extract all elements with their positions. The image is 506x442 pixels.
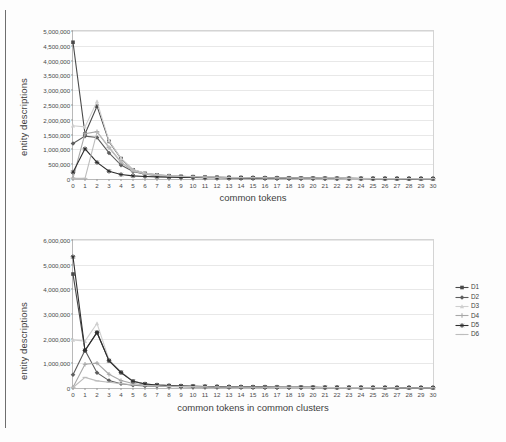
x-axis-tick-label: 9 <box>179 182 182 189</box>
data-point-marker-star <box>191 175 196 180</box>
series-D3 <box>71 321 435 389</box>
x-axis-tick-mark <box>109 179 110 181</box>
x-axis-tick-label: 24 <box>358 391 365 398</box>
x-axis-tick-label: 14 <box>238 182 245 189</box>
x-axis-tick-label: 15 <box>250 391 257 398</box>
legend-swatch-D1-icon <box>455 283 469 292</box>
legend-item-D5: D5 <box>455 321 479 330</box>
x-axis-tick-mark <box>145 179 146 181</box>
chart-top: entity descriptions 0500,0001,000,0001,5… <box>0 6 506 211</box>
legend-item-D6: D6 <box>455 330 479 339</box>
y-axis-tick-label: 2,500,000 <box>43 102 70 109</box>
x-axis-tick-label: 19 <box>298 182 305 189</box>
legend-swatch-D2-icon <box>455 293 469 302</box>
series-line <box>73 136 433 179</box>
x-axis-tick-label: 21 <box>322 182 329 189</box>
series-line <box>73 274 433 388</box>
data-point-marker-star <box>131 379 136 384</box>
x-axis-tick-label: 1 <box>83 391 86 398</box>
x-axis-tick-label: 16 <box>262 182 269 189</box>
y-axis-tick-label: 3,500,000 <box>43 72 70 79</box>
x-axis-tick-label: 16 <box>262 391 269 398</box>
x-axis-tick-label: 14 <box>238 391 245 398</box>
data-point-marker-star <box>203 175 208 180</box>
series-layer <box>73 31 433 179</box>
x-axis-tick-mark <box>109 388 110 390</box>
x-axis-tick-label: 17 <box>274 182 281 189</box>
x-axis-tick-label: 26 <box>382 391 389 398</box>
data-point-marker-triangle <box>95 99 99 103</box>
legend-swatch-D5-icon <box>455 321 469 330</box>
x-axis-tick-label: 20 <box>310 391 317 398</box>
y-axis-tick-label: 3,000,000 <box>43 311 70 318</box>
x-axis-tick-label: 4 <box>119 182 122 189</box>
x-axis-tick-label: 0 <box>71 182 74 189</box>
x-axis-tick-label: 12 <box>214 391 221 398</box>
data-point-marker-square <box>460 286 464 290</box>
data-point-marker-star <box>167 383 172 388</box>
x-axis-tick-label: 7 <box>155 391 158 398</box>
x-axis-tick-label: 9 <box>179 391 182 398</box>
x-axis-tick-mark <box>133 388 134 390</box>
x-axis-tick-mark <box>145 388 146 390</box>
legend-label: D1 <box>471 284 479 290</box>
y-axis-tick-label: 0 <box>67 176 70 183</box>
series-line <box>73 42 433 178</box>
x-axis-title-bottom: common tokens in common clusters <box>72 402 434 413</box>
legend-label: D3 <box>471 303 479 309</box>
x-axis-tick-mark <box>121 179 122 181</box>
x-axis-tick-label: 10 <box>190 182 197 189</box>
legend-item-D2: D2 <box>455 292 479 301</box>
series-layer <box>73 240 433 388</box>
x-axis-tick-mark <box>157 179 158 181</box>
legend-item-D3: D3 <box>455 302 479 311</box>
y-axis-tick-label: 5,000,000 <box>43 28 70 35</box>
legend-swatch-D4-icon <box>455 311 469 320</box>
legend: D1D2D3D4D5D6 <box>455 283 479 339</box>
x-axis-tick-mark <box>85 388 86 390</box>
y-axis-tick-label: 5,000,000 <box>43 261 70 268</box>
x-axis-tick-label: 20 <box>310 182 317 189</box>
series-D3 <box>71 99 435 180</box>
series-D2 <box>71 134 436 181</box>
data-point-marker-star <box>155 383 160 388</box>
x-axis-tick-label: 27 <box>394 182 401 189</box>
y-axis-tick-label: 4,000,000 <box>43 57 70 64</box>
x-axis-tick-label: 3 <box>107 391 110 398</box>
series-D6 <box>71 132 436 178</box>
data-point-marker-star <box>107 169 112 174</box>
legend-swatch-D3-icon <box>455 302 469 311</box>
y-axis-tick-label: 4,000,000 <box>43 286 70 293</box>
x-axis-tick-label: 13 <box>226 182 233 189</box>
data-point-marker-cross <box>119 378 123 382</box>
x-axis-tick-label: 29 <box>418 391 425 398</box>
x-axis-tick-mark <box>85 179 86 181</box>
x-axis-tick-label: 26 <box>382 182 389 189</box>
x-axis-tick-mark <box>97 388 98 390</box>
x-axis-tick-label: 6 <box>143 182 146 189</box>
data-point-marker-star <box>131 174 136 179</box>
legend-label: D6 <box>471 331 479 337</box>
legend-label: D2 <box>471 294 479 300</box>
x-axis-title-top: common tokens <box>72 192 434 203</box>
x-axis-tick-label: 19 <box>298 391 305 398</box>
chart-bottom: entity descriptions 01,000,0002,000,0003… <box>0 215 506 437</box>
data-point-marker-star <box>119 370 124 375</box>
plot-area-bottom: 01,000,0002,000,0003,000,0004,000,0005,0… <box>72 239 434 389</box>
x-axis-tick-label: 8 <box>167 391 170 398</box>
data-point-marker-cross <box>460 314 464 318</box>
legend-label: D5 <box>471 322 479 328</box>
x-axis-tick-label: 25 <box>370 391 377 398</box>
x-axis-tick-label: 15 <box>250 182 257 189</box>
y-axis-title-bottom: entity descriptions <box>18 270 29 380</box>
x-axis-tick-label: 5 <box>131 391 134 398</box>
x-axis-tick-label: 6 <box>143 391 146 398</box>
data-point-marker-star <box>71 254 76 259</box>
data-point-marker-square <box>71 40 75 44</box>
data-point-marker-star <box>95 160 100 165</box>
x-axis-tick-label: 23 <box>346 391 353 398</box>
y-axis-tick-label: 1,000,000 <box>43 146 70 153</box>
x-axis-tick-label: 1 <box>83 182 86 189</box>
y-axis-tick-label: 2,000,000 <box>43 116 70 123</box>
data-point-marker-star <box>71 170 76 175</box>
